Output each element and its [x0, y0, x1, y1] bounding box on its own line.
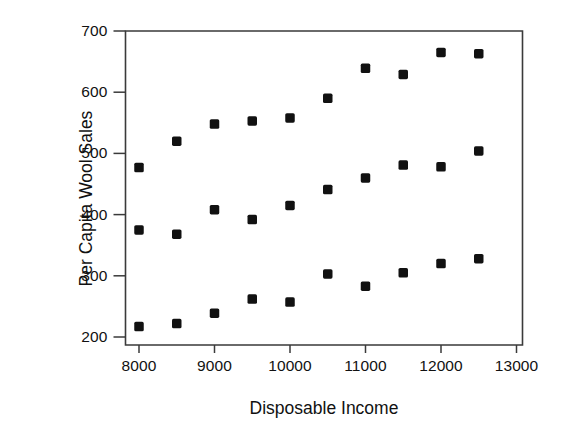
data-point-marker [436, 162, 446, 172]
x-tick-label: 9000 [175, 357, 255, 375]
x-tick-label: 8000 [99, 357, 179, 375]
data-point-marker [285, 201, 295, 211]
y-tick-label: 700 [28, 22, 108, 40]
data-point-marker [285, 113, 295, 123]
data-point-marker [248, 215, 258, 225]
x-tick-label: 12000 [401, 357, 481, 375]
data-point-marker [172, 319, 182, 329]
data-point-marker [210, 119, 220, 129]
data-point-marker [210, 205, 220, 215]
data-point-marker [436, 259, 446, 269]
data-point-marker [399, 70, 409, 80]
data-point-marker [248, 116, 258, 126]
data-point-marker [474, 254, 484, 264]
x-axis-ticks [139, 345, 517, 353]
data-point-marker [285, 297, 295, 307]
data-point-marker [134, 225, 144, 235]
scatter-plot-figure: 8000900010000110001200013000200300400500… [0, 0, 569, 444]
data-point-marker [361, 281, 371, 291]
data-point-markers [134, 48, 483, 332]
data-point-marker [436, 48, 446, 58]
data-point-marker [172, 229, 182, 239]
data-point-marker [399, 268, 409, 278]
data-point-marker [210, 308, 220, 318]
x-tick-label: 10000 [250, 357, 330, 375]
data-point-marker [134, 322, 144, 332]
data-point-marker [323, 269, 333, 279]
data-point-marker [399, 160, 409, 170]
data-point-marker [474, 49, 484, 59]
data-point-marker [361, 64, 371, 74]
y-axis-title: Per Capita Wool Sales [76, 49, 97, 349]
x-axis-title: Disposable Income [125, 398, 523, 419]
data-point-marker [248, 294, 258, 304]
data-point-marker [134, 163, 144, 173]
x-tick-label: 13000 [477, 357, 557, 375]
y-axis-ticks [114, 31, 126, 337]
x-tick-label: 11000 [326, 357, 406, 375]
data-point-marker [323, 94, 333, 104]
data-point-marker [361, 173, 371, 183]
data-point-marker [172, 136, 182, 146]
data-point-marker [474, 146, 484, 156]
data-point-marker [323, 185, 333, 195]
